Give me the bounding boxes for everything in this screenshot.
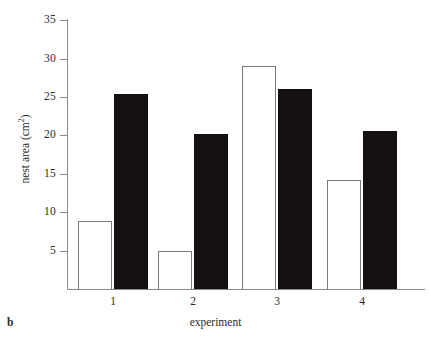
y-axis-tick	[60, 251, 68, 252]
y-axis-tick-label: 5	[28, 245, 56, 257]
x-axis-tick-label: 3	[257, 295, 297, 307]
x-axis-tick-label: 1	[93, 295, 133, 307]
panel-label: b	[7, 316, 13, 328]
y-axis-tick	[60, 135, 68, 136]
bar-open-experiment-2	[158, 251, 192, 289]
y-axis-tick	[60, 212, 68, 213]
y-axis-tick-label: 15	[28, 168, 56, 180]
bar-filled-experiment-4	[363, 131, 397, 289]
y-axis-tick	[60, 20, 68, 21]
y-axis-tick-label: 30	[28, 53, 56, 65]
y-axis-title-superscript: 2	[17, 118, 26, 122]
x-axis-line	[67, 289, 425, 290]
y-axis-title-suffix: )	[19, 114, 31, 118]
y-axis-title: nest area (cm2)	[17, 79, 31, 219]
bar-open-experiment-4	[327, 180, 361, 289]
y-axis-tick	[60, 97, 68, 98]
y-axis-tick-label: 20	[28, 129, 56, 141]
y-axis-tick-label: 25	[28, 91, 56, 103]
bar-filled-experiment-3	[278, 89, 312, 289]
bar-open-experiment-3	[242, 66, 276, 289]
bar-open-experiment-1	[78, 221, 112, 289]
y-axis-tick	[60, 174, 68, 175]
bar-chart-figure: 5101520253035 nest area (cm2) 1234 exper…	[0, 0, 431, 341]
y-axis-tick-label: 35	[28, 14, 56, 26]
y-axis-title-text: nest area (cm	[19, 122, 31, 183]
bar-filled-experiment-2	[194, 134, 228, 289]
x-axis-tick-label: 2	[173, 295, 213, 307]
y-axis-tick-label: 10	[28, 206, 56, 218]
x-axis-title: experiment	[0, 316, 431, 328]
y-axis-tick	[60, 59, 68, 60]
bar-filled-experiment-1	[114, 94, 148, 289]
x-axis-tick-label: 4	[342, 295, 382, 307]
